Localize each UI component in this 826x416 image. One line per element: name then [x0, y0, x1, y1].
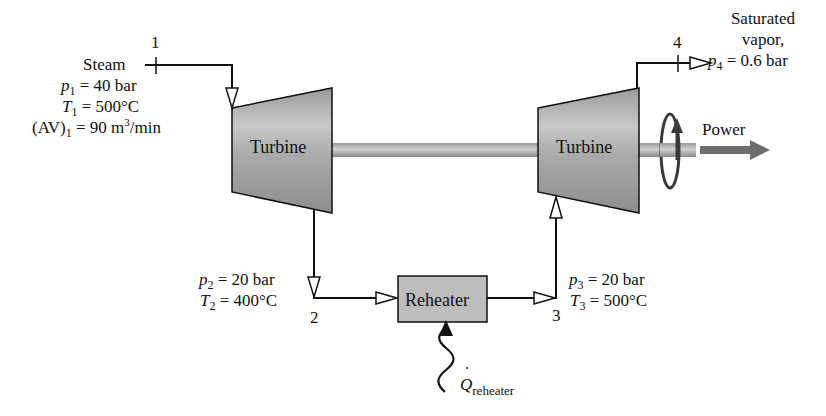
- state-1-temperature: T1 = 500°C: [62, 97, 139, 117]
- reheater-label: Reheater: [405, 290, 469, 310]
- state-1-volumetric-flow: (AV)1 = 90 m3/min: [32, 118, 161, 138]
- line-turbine-to-reheater: [314, 209, 376, 298]
- inlet-line: [145, 57, 232, 88]
- power-label: Power: [702, 120, 745, 140]
- line-reheater-to-turbine: [487, 218, 556, 298]
- state-4-description-line2: vapor,: [718, 30, 808, 50]
- inlet-arrow-icon: [226, 88, 238, 108]
- shaft: [330, 143, 542, 157]
- state-3-pressure: p3 = 20 bar: [569, 270, 645, 290]
- turbine-hp-label: Turbine: [250, 137, 306, 157]
- turbine-lp-label: Turbine: [556, 137, 612, 157]
- state-2-pressure: p2 = 20 bar: [199, 270, 275, 290]
- state-2-number: 2: [310, 308, 319, 328]
- state-1-fluid: Steam: [83, 55, 126, 75]
- rotation-arrow-icon: [671, 118, 683, 133]
- reheater-inlet-arrow-icon: [376, 292, 397, 304]
- state3-right-arrow-icon: [534, 292, 555, 304]
- state-4-description-line1: Saturated: [718, 9, 808, 29]
- state-1-number: 1: [151, 33, 160, 53]
- state-2-temperature: T2 = 400°C: [200, 291, 277, 311]
- heat-input-label: Qreheater: [460, 375, 514, 395]
- exit-line: [637, 55, 690, 88]
- state-1-pressure: p1 = 40 bar: [61, 76, 137, 96]
- power-arrow-shaft: [700, 146, 752, 154]
- state-3-number: 3: [552, 306, 561, 326]
- power-arrow-icon: [750, 140, 770, 160]
- state-4-pressure: p4 = 0.6 bar: [708, 51, 788, 71]
- state2-down-arrow-icon: [308, 277, 320, 297]
- state-3-temperature: T3 = 500°C: [570, 291, 647, 311]
- heat-input-wavy-icon: [438, 328, 453, 392]
- state-4-number: 4: [673, 33, 682, 53]
- lp-inlet-arrow-icon: [550, 197, 562, 218]
